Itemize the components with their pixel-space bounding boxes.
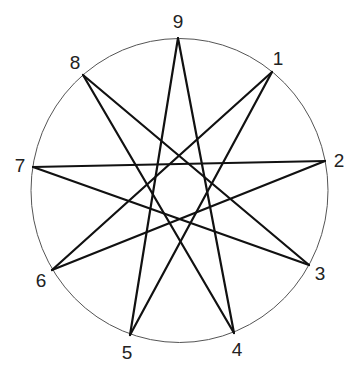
point-label-4: 4 <box>232 339 243 360</box>
point-label-1: 1 <box>273 48 284 69</box>
point-label-8: 8 <box>70 52 81 73</box>
edge-4-8 <box>83 75 234 333</box>
edge-8-3 <box>83 75 309 265</box>
enneagram-diagram: 123456789 <box>0 0 362 377</box>
star-figure: 123456789 <box>0 0 362 377</box>
point-label-9: 9 <box>173 11 184 32</box>
point-label-6: 6 <box>36 270 47 291</box>
star-edges <box>33 38 325 335</box>
point-label-2: 2 <box>334 150 345 171</box>
edge-9-4 <box>178 38 234 333</box>
edge-7-2 <box>33 161 325 167</box>
point-labels: 123456789 <box>15 11 345 363</box>
point-label-3: 3 <box>315 263 326 284</box>
point-label-5: 5 <box>122 342 133 363</box>
outer-circle <box>31 39 328 343</box>
point-label-7: 7 <box>15 155 26 176</box>
